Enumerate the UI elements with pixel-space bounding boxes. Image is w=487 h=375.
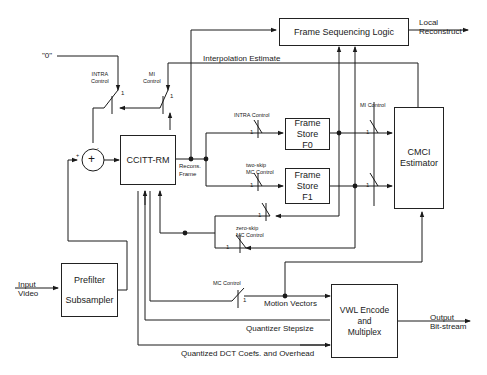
frame-store-f0-block: Frame Store F0 <box>285 118 330 150</box>
switch-pos-two-skip: 1 <box>250 181 253 190</box>
prefilter-line1: Prefilter <box>74 275 105 286</box>
cmci-line1: CMCI <box>408 147 431 158</box>
summer-plus-symbol: + <box>88 153 95 166</box>
zero-skip-label: zero-skip MC Control <box>236 225 264 238</box>
vwl-line2: and <box>357 316 371 327</box>
frame-sequencing-label: Frame Sequencing Logic <box>294 27 394 38</box>
switch-pos-two-skip-feedback: 1 <box>258 211 261 220</box>
recons-frame-line2: Frame <box>179 170 201 178</box>
summer-plus-sign: + <box>76 152 79 159</box>
switch-pos-zero-skip: 1 <box>226 243 229 252</box>
zero-input-label: "0" <box>42 51 52 60</box>
prefilter-line2: Subsampler <box>65 295 113 306</box>
mc-control-label: MC Control <box>213 280 241 287</box>
switch-pos-intra-left: 1 <box>121 89 124 98</box>
f1-line1: Frame <box>294 170 320 181</box>
local-reconstruct-line2: Reconstruct <box>419 27 462 36</box>
quantized-dct-label: Quantized DCT Coefs. and Overhead <box>181 349 314 358</box>
vwl-encode-block: VWL Encode and Multiplex <box>331 284 398 358</box>
mi-control-left-label: MI Control <box>143 71 161 84</box>
summer-minus-sign: - <box>97 145 99 152</box>
switch-pos-mi-right-top: 1 <box>366 128 369 137</box>
f1-line2: Store <box>297 181 319 192</box>
ccitt-rm-block: CCITT-RM <box>120 135 176 185</box>
intra-left-line2: Control <box>91 78 109 85</box>
cmci-estimator-block: CMCI Estimator <box>394 107 444 209</box>
intra-left-line1: INTRA <box>91 71 109 78</box>
frame-store-f1-block: Frame Store F1 <box>285 168 330 204</box>
vwl-line1: VWL Encode <box>340 305 389 316</box>
interpolation-estimate-label: Interpolation Estimate <box>203 54 280 63</box>
output-bitstream-line2: Bit-stream <box>430 322 466 331</box>
mi-control-right-label: MI Control <box>360 102 385 109</box>
f0-line3: F0 <box>302 140 313 151</box>
cmci-line2: Estimator <box>400 158 438 169</box>
frame-sequencing-logic-block: Frame Sequencing Logic <box>279 18 409 46</box>
local-reconstruct-line1: Local <box>419 18 462 27</box>
input-video-label: Input Video <box>18 280 38 298</box>
zero-skip-line2: MC Control <box>236 232 264 239</box>
two-skip-line2: MC Control <box>246 169 274 176</box>
intra-control-f0-label: INTRA Control <box>234 112 269 119</box>
recons-frame-label: Recons. Frame <box>179 162 201 178</box>
vwl-line3: Multiplex <box>348 327 382 338</box>
ccitt-rm-label: CCITT-RM <box>127 155 170 166</box>
motion-vectors-label: Motion Vectors <box>264 299 317 308</box>
prefilter-subsampler-block: Prefilter Subsampler <box>61 263 118 317</box>
mi-left-line2: Control <box>143 78 161 85</box>
output-bitstream-label: Output Bit-stream <box>430 313 466 331</box>
intra-control-left-label: INTRA Control <box>91 71 109 84</box>
f0-line1: Frame <box>294 118 320 129</box>
switch-pos-mi-right-bottom: 1 <box>366 181 369 190</box>
switch-pos-intra-f0: 1 <box>250 128 253 137</box>
switch-pos-mi-left: 1 <box>170 92 173 101</box>
local-reconstruct-label: Local Reconstruct <box>419 18 462 36</box>
two-skip-label: two-skip MC Control <box>246 162 274 175</box>
f0-line2: Store <box>297 129 319 140</box>
output-bitstream-line1: Output <box>430 313 466 322</box>
junction-dots <box>183 131 358 299</box>
quantizer-stepsize-label: Quantizer Stepsize <box>246 324 314 333</box>
input-video-line1: Input <box>18 280 38 289</box>
f1-line3: F1 <box>302 192 313 203</box>
recons-frame-line1: Recons. <box>179 162 201 170</box>
input-video-line2: Video <box>18 289 38 298</box>
switch-pos-mc: 1 <box>243 296 246 305</box>
